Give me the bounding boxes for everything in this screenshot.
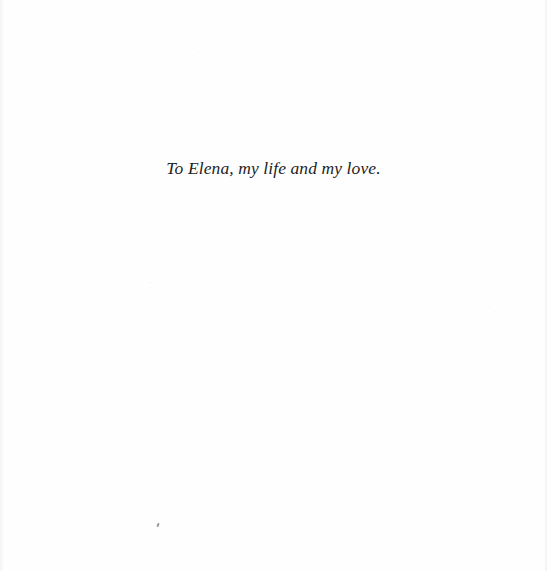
scan-speck	[156, 523, 159, 527]
scan-speck	[198, 52, 199, 53]
scan-speck	[494, 311, 495, 312]
book-page: To Elena, my life and my love.	[0, 0, 547, 571]
page-edge-shadow-left	[0, 0, 4, 571]
scan-speck	[150, 282, 151, 283]
dedication-text: To Elena, my life and my love.	[0, 158, 547, 179]
